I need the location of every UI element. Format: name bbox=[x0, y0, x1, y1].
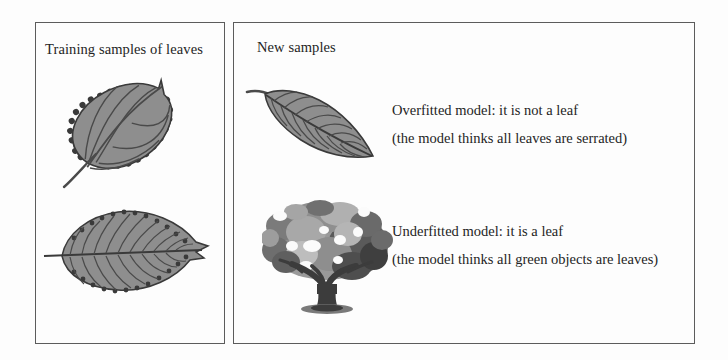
overfitted-model-caption: Overfitted model: it is not a leaf (the … bbox=[392, 96, 627, 152]
underfitted-caption-line-2: (the model thinks all green objects are … bbox=[392, 245, 658, 273]
new-samples-title: New samples bbox=[257, 39, 336, 56]
overfitted-caption-line-1: Overfitted model: it is not a leaf bbox=[392, 96, 627, 124]
serrated-elm-leaf-illustration bbox=[40, 200, 220, 300]
underfitted-model-caption: Underfitted model: it is a leaf (the mod… bbox=[392, 217, 658, 273]
figure-canvas: Training samples of leaves bbox=[0, 0, 728, 360]
tree-photograph-illustration bbox=[262, 196, 394, 314]
overfitted-caption-line-2: (the model thinks all leaves are serrate… bbox=[392, 124, 627, 152]
underfitted-caption-line-1: Underfitted model: it is a leaf bbox=[392, 217, 658, 245]
smooth-edged-leaf-illustration bbox=[245, 76, 380, 172]
training-samples-title: Training samples of leaves bbox=[45, 41, 203, 58]
serrated-oval-leaf-illustration bbox=[52, 68, 192, 190]
